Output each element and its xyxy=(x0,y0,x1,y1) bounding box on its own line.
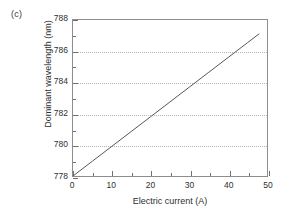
y-axis-title-container: Dominant wavelength (nm) xyxy=(18,19,34,177)
y-tick-label-group: 778780782784786788 xyxy=(40,19,68,177)
y-tick-label: 788 xyxy=(40,13,68,23)
x-axis-title: Electric current (A) xyxy=(72,196,268,206)
y-tick-label: 780 xyxy=(40,139,68,149)
y-tick-label: 782 xyxy=(40,108,68,118)
x-tick-label: 50 xyxy=(263,180,272,190)
y-tick-label: 786 xyxy=(40,45,68,55)
x-tick-label: 0 xyxy=(70,180,75,190)
series-line-dominant-wavelength xyxy=(73,34,259,176)
panel-label: (c) xyxy=(11,9,22,19)
y-tick-label: 784 xyxy=(40,76,68,86)
y-tick-major xyxy=(73,178,78,179)
x-tick-label: 40 xyxy=(224,180,233,190)
data-series-svg xyxy=(73,20,267,176)
x-tick-label: 20 xyxy=(146,180,155,190)
x-tick-label: 30 xyxy=(185,180,194,190)
y-tick-label: 778 xyxy=(40,171,68,181)
x-tick-label: 10 xyxy=(106,180,115,190)
x-tick-major xyxy=(269,171,270,176)
plot-area xyxy=(72,19,268,177)
x-tick-label-group: 01020304050 xyxy=(72,180,268,194)
